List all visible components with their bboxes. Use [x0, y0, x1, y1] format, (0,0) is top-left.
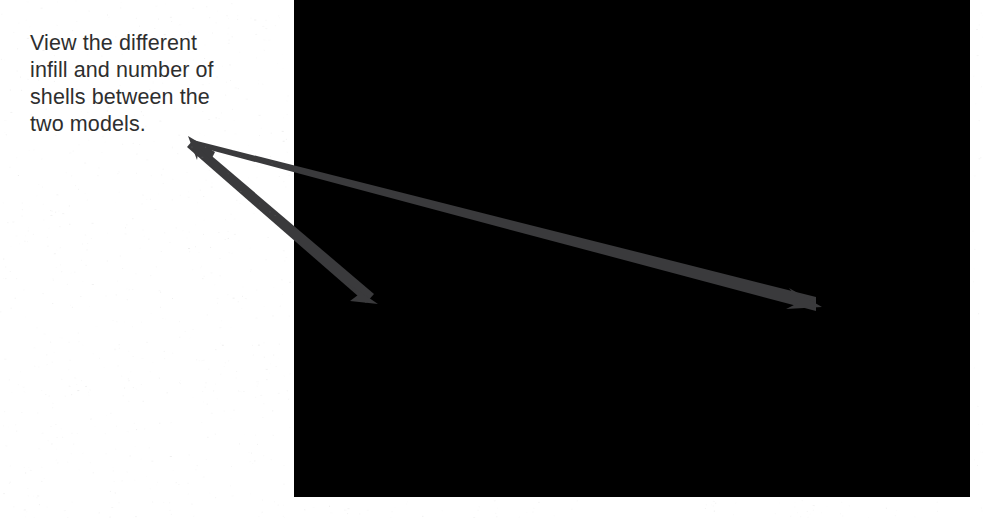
- origin-arrowhead-icon: [188, 136, 215, 160]
- annotation-caption-text: View the different infill and number of …: [30, 30, 280, 138]
- figure-page: View the different infill and number of …: [0, 0, 983, 518]
- photograph-region: [294, 0, 970, 497]
- photograph-image: [294, 0, 970, 497]
